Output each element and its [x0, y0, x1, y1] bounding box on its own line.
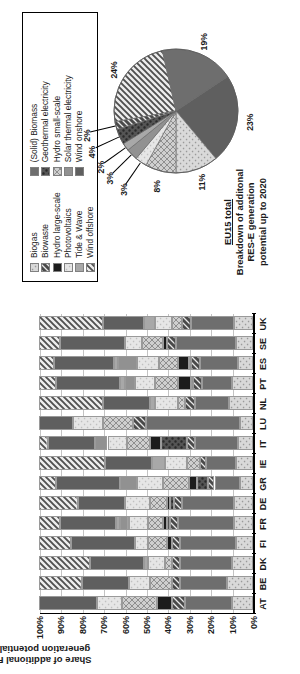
legend-item: (Solid) Biomass [30, 75, 39, 176]
bar-segment [234, 516, 253, 530]
bar-segment [155, 376, 179, 390]
legend-swatch-icon [75, 263, 84, 272]
x-tickmark [252, 593, 256, 594]
bar-segment [172, 596, 185, 610]
pie-title-line-1: EU15 total [222, 162, 234, 282]
legend-item: Biogas [30, 192, 39, 272]
legend-label: Photovoltaics [64, 208, 73, 258]
bar-segment [135, 536, 148, 550]
bar-chart-country-labels: ATBEDKFIFRDEGRIEITLUNLPTESSEUK [256, 314, 272, 614]
pie-title-line-2: Breakdown of [234, 213, 245, 275]
bar-segment [185, 596, 232, 610]
legend-item: Tide & Wave [75, 192, 84, 272]
x-tickmark [252, 553, 256, 554]
bar-segment [39, 496, 78, 510]
bar-segment [150, 496, 167, 510]
country-label-lu: LU [258, 418, 268, 430]
pie-chart: 24%19%23%11%8%3%3%2%4%2% EU15 total Brea… [102, 10, 300, 282]
y-axis-tick: 100% [35, 616, 45, 639]
y-axis-tick: 0% [249, 616, 259, 629]
bar-segment [56, 376, 120, 390]
bar-segment [148, 556, 165, 570]
country-label-de: DE [258, 498, 268, 511]
bar-segment [129, 516, 148, 530]
bar-segment [187, 436, 196, 450]
bar-segment [125, 496, 151, 510]
bar-segment [172, 556, 181, 570]
bar-segment [191, 316, 234, 330]
bar-segment [39, 556, 90, 570]
bar-segment [174, 496, 183, 510]
pie-chart-title: EU15 total Breakdown of additonal RES-E … [222, 162, 268, 282]
bar-segment [172, 316, 183, 330]
bar-segment [78, 496, 125, 510]
y-axis-tick: 40% [163, 616, 173, 634]
country-label-ie: IE [258, 460, 268, 469]
bar-segment [236, 456, 253, 470]
x-tickmark [252, 473, 256, 474]
country-label-it: IT [258, 440, 268, 448]
bar-segment [142, 336, 163, 350]
legend-swatch-icon [64, 167, 73, 176]
bar-segment [208, 476, 214, 490]
bar-segment [167, 336, 176, 350]
bar-segment [172, 536, 181, 550]
bar-segment [195, 396, 229, 410]
bar-segment [108, 436, 127, 450]
bar-segment [125, 376, 136, 390]
bar-segment [148, 516, 163, 530]
bar-segment [178, 376, 191, 390]
y-axis-tick: 20% [206, 616, 216, 634]
bar-segment [120, 376, 124, 390]
x-tickmark [252, 413, 256, 414]
bar-segment [178, 516, 234, 530]
bar-segment [39, 456, 105, 470]
country-label-fi: FI [258, 540, 268, 548]
bar-segment [238, 436, 253, 450]
legend-label: Hydro small-scale [53, 96, 62, 163]
bar-segment [125, 336, 142, 350]
bar-segment [191, 356, 200, 370]
bar-segment [120, 476, 137, 490]
bar-segment [180, 556, 231, 570]
bar-segment [120, 516, 129, 530]
bar-segment [234, 316, 253, 330]
legend-item: Solar thermal electricity [64, 75, 73, 176]
pie-data-label: 3% [119, 183, 129, 195]
pie-title-line-5: up to 2020 [257, 178, 268, 224]
bar-segment [180, 536, 236, 550]
bar-segment [165, 456, 186, 470]
bar-segment [97, 596, 123, 610]
bar-segment [95, 436, 108, 450]
legend-item: Biowaste [41, 192, 50, 272]
bar-segment [39, 436, 48, 450]
bar-segment [116, 516, 120, 530]
y-axis-tick: 10% [228, 616, 238, 634]
y-axis-tick: 80% [78, 616, 88, 634]
legend-label: Solar thermal electricity [64, 75, 73, 162]
bar-segment [144, 316, 155, 330]
bar-segment [146, 416, 240, 430]
bar-segment [90, 556, 144, 570]
bar-segment [200, 456, 206, 470]
bar-segment [39, 376, 56, 390]
bar-segment [150, 396, 154, 410]
bar-segment [56, 476, 120, 490]
bar-segment [152, 456, 165, 470]
legend-swatch-icon [41, 263, 50, 272]
bar-segment [39, 476, 56, 490]
bar-chart-axis-title: Share of additional RES-E generation pot… [0, 644, 98, 666]
legend-swatch-icon [75, 167, 84, 176]
bar-segment [170, 496, 174, 510]
bar-segment [197, 476, 208, 490]
pie-data-label: 3% [105, 172, 115, 184]
bar-segment [180, 576, 227, 590]
y-axis-tick: 30% [185, 616, 195, 634]
legend-label: Wind offshore [86, 206, 95, 258]
country-label-dk: DK [258, 558, 268, 571]
figure-canvas: Share of additional RES-E generation pot… [10, 0, 300, 674]
bar-segment [82, 576, 129, 590]
legend-swatch-icon [30, 167, 39, 176]
bar-segment [39, 356, 54, 370]
x-tickmark [252, 313, 256, 314]
